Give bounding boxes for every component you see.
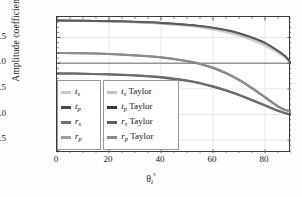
y-tick-label: −0.5 — [0, 82, 6, 92]
legend-swatch-icon — [61, 136, 71, 139]
y-tick-label: 0.0 — [0, 56, 6, 66]
legend-label: tp — [75, 102, 81, 113]
legend-swatch-icon — [107, 106, 117, 109]
legend-label: rs Taylor — [121, 117, 153, 128]
legend-item[interactable]: rs — [61, 115, 97, 130]
series-line-ts_taylor — [57, 21, 291, 64]
legend-item[interactable]: tp Taylor — [107, 100, 175, 115]
legend-column-exact: tstprsrp — [57, 80, 101, 150]
legend-label: rp — [75, 132, 82, 143]
legend-swatch-icon — [61, 91, 71, 94]
x-axis-title: θi° — [0, 172, 302, 186]
x-tick-label: 60 — [197, 154, 227, 164]
legend-swatch-icon — [61, 121, 71, 124]
x-tick-label: 0 — [41, 154, 71, 164]
legend-label: ts — [75, 87, 80, 98]
y-tick-label: −1.0 — [0, 108, 6, 118]
legend-item[interactable]: rp Taylor — [107, 130, 175, 145]
x-tick-label: 20 — [93, 154, 123, 164]
chart-legend: tstprsrp ts Taylortp Taylorrs Taylorrp T… — [57, 80, 179, 150]
legend-column-taylor: ts Taylortp Taylorrs Taylorrp Taylor — [103, 80, 179, 150]
y-axis-title: Amplitude coefficient — [11, 0, 23, 104]
legend-label: tp Taylor — [121, 102, 152, 113]
legend-swatch-icon — [107, 121, 117, 124]
legend-swatch-icon — [107, 91, 117, 94]
legend-item[interactable]: ts — [61, 85, 97, 100]
legend-label: rp Taylor — [121, 132, 153, 143]
chart-figure: Amplitude coefficient θi° 0.50.0−0.5−1.0… — [0, 0, 302, 197]
legend-swatch-icon — [61, 106, 71, 109]
legend-item[interactable]: rp — [61, 130, 97, 145]
legend-label: rs — [75, 117, 81, 128]
legend-item[interactable]: tp — [61, 100, 97, 115]
legend-label: ts Taylor — [121, 87, 152, 98]
y-tick-label: −1.5 — [0, 133, 6, 143]
legend-item[interactable]: ts Taylor — [107, 85, 175, 100]
legend-swatch-icon — [107, 136, 117, 139]
x-tick-label: 80 — [249, 154, 279, 164]
x-tick-label: 40 — [145, 154, 175, 164]
y-tick-label: 0.5 — [0, 31, 6, 41]
legend-item[interactable]: rs Taylor — [107, 115, 175, 130]
x-axis-title-degree: ° — [153, 172, 156, 180]
